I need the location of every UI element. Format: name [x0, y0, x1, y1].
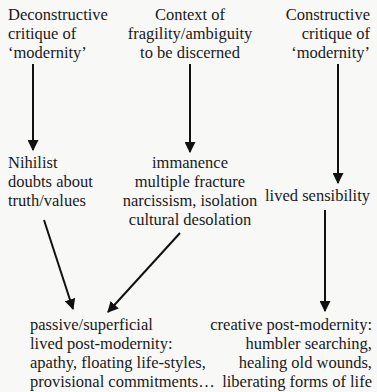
node-immanence: immanence multiple fracture narcissism, … — [110, 153, 270, 229]
node-passive-postmodernity: passive/superficial lived post-modernity… — [30, 315, 215, 391]
arrow-nihilist-to-passive — [44, 220, 73, 309]
node-text-line: humbler searching, — [210, 334, 372, 353]
node-text-line: critique of — [286, 24, 370, 43]
node-text-line: immanence — [110, 153, 270, 172]
node-text-line: fragility/ambiguity — [115, 24, 265, 43]
node-text-line: lived post-modernity: — [30, 334, 215, 353]
node-nihilist-doubts: Nihilist doubts about truth/values — [8, 153, 93, 210]
node-text-line: critique of — [8, 24, 108, 43]
node-context-fragility: Context of fragility/ambiguity to be dis… — [115, 5, 265, 62]
node-text-line: Context of — [115, 5, 265, 24]
node-text-line: ‘modernity’ — [8, 43, 108, 62]
node-text-line: Deconstructive — [8, 5, 108, 24]
node-text-line: apathy, floating life-styles, — [30, 353, 215, 372]
node-text-line: lived sensibility — [265, 186, 370, 205]
node-text-line: multiple fracture — [110, 172, 270, 191]
node-text-line: liberating forms of life — [210, 372, 372, 391]
node-text-line: passive/superficial — [30, 315, 215, 334]
node-creative-postmodernity: creative post-modernity: humbler searchi… — [210, 315, 372, 391]
node-text-line: truth/values — [8, 191, 93, 210]
node-text-line: ‘modernity’ — [286, 43, 370, 62]
node-constructive-critique: Constructive critique of ‘modernity’ — [286, 5, 370, 62]
node-text-line: healing old wounds, — [210, 353, 372, 372]
arrow-immanence-to-passive — [108, 233, 180, 312]
node-text-line: Constructive — [286, 5, 370, 24]
node-text-line: doubts about — [8, 172, 93, 191]
node-text-line: Nihilist — [8, 153, 93, 172]
node-text-line: creative post-modernity: — [210, 315, 372, 334]
node-text-line: provisional commitments… — [30, 372, 215, 391]
node-lived-sensibility: lived sensibility — [265, 186, 370, 205]
node-text-line: cultural desolation — [110, 210, 270, 229]
node-text-line: to be discerned — [115, 43, 265, 62]
node-text-line: narcissism, isolation — [110, 191, 270, 210]
node-deconstructive-critique: Deconstructive critique of ‘modernity’ — [8, 5, 108, 62]
